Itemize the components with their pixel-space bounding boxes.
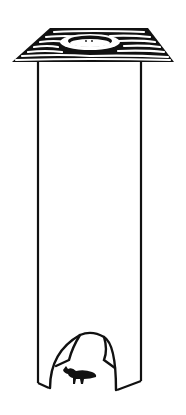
tube xyxy=(38,62,141,390)
roof xyxy=(12,28,174,62)
rodent-icon xyxy=(63,366,96,384)
tube-trap-illustration xyxy=(0,0,186,415)
